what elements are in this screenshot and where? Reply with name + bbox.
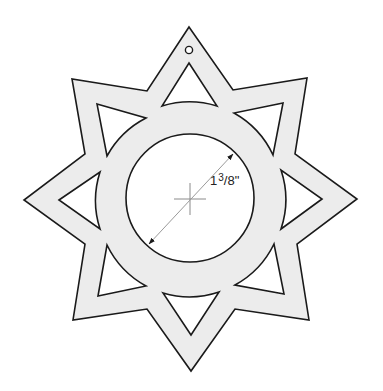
dimension-label: 13/8" (210, 172, 240, 188)
dimension-line (149, 154, 233, 244)
dimension-whole: 1 (210, 173, 217, 188)
dimension-denominator: /8" (224, 173, 240, 188)
star-ornament-diagram: 13/8" (0, 0, 383, 391)
hole-icon (185, 46, 192, 53)
